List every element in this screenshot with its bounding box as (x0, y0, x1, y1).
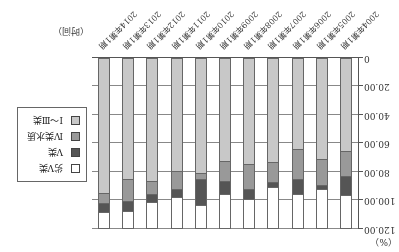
legend: 劣Ⅴ类Ⅴ类Ⅳ类水质Ⅰ～Ⅲ类 (17, 107, 87, 182)
legend-item: 劣Ⅴ类 (24, 161, 80, 177)
legend-item: Ⅰ～Ⅲ类 (24, 113, 80, 129)
bar-segment (171, 190, 183, 198)
bar-segment (219, 182, 231, 195)
bar-segment (98, 213, 110, 229)
bar-segment (171, 198, 183, 229)
stacked-bar (267, 58, 279, 229)
stacked-bar (146, 58, 158, 229)
bar-segment (267, 58, 279, 163)
bar-segment (292, 195, 304, 229)
stacked-bar (98, 58, 110, 229)
bar-segment (171, 58, 183, 172)
bar-segment (340, 177, 352, 196)
x-axis-title: （时间） (53, 25, 89, 38)
bar-segment (122, 180, 134, 202)
y-tick (358, 228, 363, 229)
y-tick (358, 143, 363, 144)
bar-segment (340, 58, 352, 152)
bar-segment (195, 180, 207, 206)
bar-segment (98, 58, 110, 194)
bar-segment (171, 172, 183, 190)
chart-root: （%） 2004年第1期2005年第1期2006年第1期2007年第1期2008… (0, 0, 399, 252)
stacked-bar (340, 58, 352, 229)
legend-swatch-icon (71, 133, 80, 142)
bar-segment (292, 58, 304, 150)
bar-segment (195, 58, 207, 174)
y-tick (358, 114, 363, 115)
stacked-bar (122, 58, 134, 229)
y-tick-label: 40.00 (364, 111, 399, 121)
stacked-bar (316, 58, 328, 229)
bar-segment (98, 204, 110, 213)
stacked-bar (195, 58, 207, 229)
y-tick (358, 57, 363, 58)
plot-area (92, 57, 359, 229)
y-tick-label: 20.00 (364, 83, 399, 93)
legend-label: Ⅰ～Ⅲ类 (33, 115, 63, 128)
stacked-bar (243, 58, 255, 229)
y-tick-label: 120.00 (364, 225, 399, 235)
y-tick-label: 100.00 (364, 197, 399, 207)
bar-segment (146, 203, 158, 229)
bar-segment (243, 165, 255, 190)
y-tick (358, 200, 363, 201)
legend-swatch-icon (71, 149, 80, 158)
stacked-bar (292, 58, 304, 229)
y-tick (358, 171, 363, 172)
bar-segment (243, 58, 255, 165)
legend-label: Ⅴ类 (48, 147, 64, 160)
stacked-bar (171, 58, 183, 229)
bar-segment (316, 160, 328, 186)
bar-segment (195, 206, 207, 229)
bar-segment (292, 150, 304, 180)
bar-segment (219, 162, 231, 182)
stacked-bar (219, 58, 231, 229)
bar-segment (146, 58, 158, 182)
bar-segment (340, 152, 352, 177)
bar-segment (146, 195, 158, 204)
bar-segment (267, 163, 279, 183)
bar-segment (316, 190, 328, 229)
bar-segment (340, 196, 352, 229)
y-tick-label: 60.00 (364, 140, 399, 150)
bar-segment (292, 180, 304, 195)
bar-segment (316, 186, 328, 190)
bar-segment (98, 194, 110, 204)
legend-label: Ⅳ类水质 (27, 131, 63, 144)
bar-segment (316, 58, 328, 160)
bar-segment (195, 174, 207, 180)
legend-item: Ⅳ类水质 (24, 129, 80, 145)
legend-swatch-icon (71, 165, 80, 174)
bar-segment (243, 200, 255, 229)
bar-segment (122, 212, 134, 229)
legend-swatch-icon (71, 117, 80, 126)
bar-segment (122, 58, 134, 180)
bar-segment (122, 202, 134, 212)
legend-label: 劣Ⅴ类 (39, 163, 64, 176)
bar-segment (267, 183, 279, 187)
bar-segment (219, 195, 231, 229)
bar-segment (146, 182, 158, 195)
legend-item: Ⅴ类 (24, 145, 80, 161)
bar-segment (219, 58, 231, 162)
bar-segment (243, 190, 255, 200)
y-axis-title: （%） (370, 236, 397, 249)
bar-segment (267, 188, 279, 229)
y-tick (358, 86, 363, 87)
y-tick-label: 0 (364, 54, 399, 64)
y-tick-label: 80.00 (364, 168, 399, 178)
